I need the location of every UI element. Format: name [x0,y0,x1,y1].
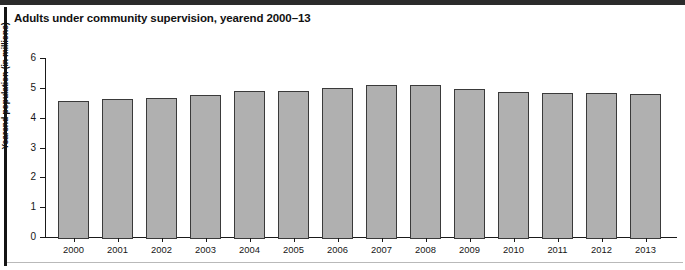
y-axis-tick: 6 [40,58,45,59]
y-axis-tick: 5 [40,88,45,89]
scan-top-band [0,0,685,5]
bar [366,85,397,239]
x-axis-tick-label: 2012 [580,244,624,255]
x-axis-tick-label: 2006 [316,244,360,255]
y-axis-tick: 4 [40,118,45,119]
x-axis-tick [294,238,295,242]
x-axis-tick-label: 2000 [52,244,96,255]
bar [278,91,309,239]
bar [190,95,221,239]
x-axis-tick [558,238,559,242]
bar [586,93,617,239]
x-axis-tick-label: 2004 [228,244,272,255]
y-axis-line [45,58,46,237]
x-axis-tick [162,238,163,242]
bar [102,99,133,239]
y-axis-tick: 2 [40,177,45,178]
chart-title: Adults under community supervision, year… [14,12,311,24]
x-axis-tick-label: 2009 [448,244,492,255]
x-axis-tick-label: 2007 [360,244,404,255]
x-axis-tick [250,238,251,242]
bar [58,101,89,239]
x-axis-tick [426,238,427,242]
x-axis-tick-label: 2001 [96,244,140,255]
y-axis-tick-label: 2 [30,170,36,183]
bar [322,88,353,239]
x-axis-tick-label: 2008 [404,244,448,255]
y-axis-tick-label: 0 [30,230,36,243]
x-axis-tick [338,238,339,242]
x-axis-tick-label: 2011 [536,244,580,255]
x-axis-tick [646,238,647,242]
y-axis-tick: 0 [40,237,45,238]
y-axis-tick-label: 6 [30,51,36,64]
x-axis-line [45,237,677,238]
figure-panel: Adults under community supervision, year… [0,0,685,270]
x-axis-tick [470,238,471,242]
y-axis-tick-label: 3 [30,141,36,154]
x-axis-tick-label: 2005 [272,244,316,255]
bar [630,94,661,239]
bar [542,93,573,239]
y-axis-tick-label: 1 [30,200,36,213]
x-axis-tick [382,238,383,242]
bar [146,98,177,239]
x-axis-tick [206,238,207,242]
bar [498,92,529,239]
y-axis-tick: 3 [40,148,45,149]
x-axis-tick [74,238,75,242]
x-axis-tick-label: 2002 [140,244,184,255]
x-axis-tick [514,238,515,242]
x-axis-tick [602,238,603,242]
x-axis-tick-label: 2010 [492,244,536,255]
y-axis-tick-label: 5 [30,81,36,94]
y-axis-tick: 1 [40,207,45,208]
x-axis-tick [118,238,119,242]
figure-frame-bottom-rule [7,262,683,263]
y-axis-title: Yearend population (in millions) [0,22,10,149]
plot-area: 0123456 20002001200220032004200520062007… [45,58,677,240]
bar [234,91,265,239]
bar [410,85,441,239]
x-axis-tick-label: 2013 [624,244,668,255]
x-axis-tick-label: 2003 [184,244,228,255]
y-axis-tick-label: 4 [30,111,36,124]
bar [454,89,485,239]
